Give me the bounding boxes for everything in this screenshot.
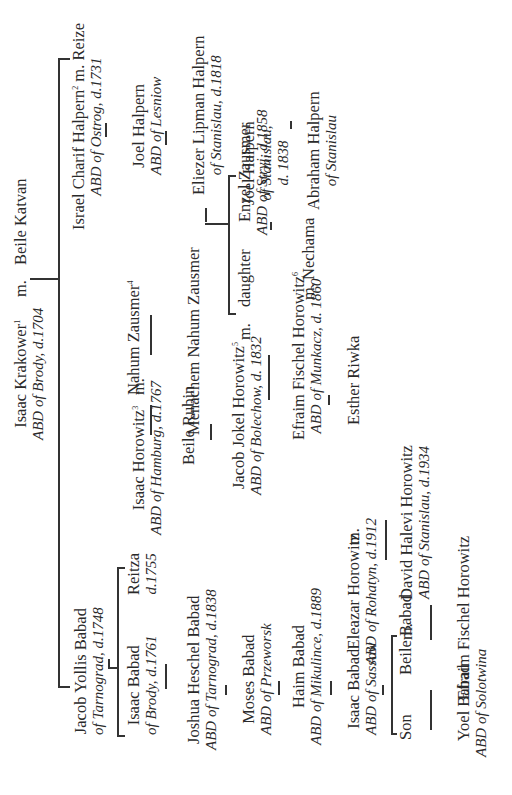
marriage-marker: m.	[12, 280, 30, 297]
person-name: Son	[397, 714, 415, 740]
person-title: ABD of Mikulince, d.1889	[308, 588, 325, 745]
footnote-marker: 2	[71, 86, 80, 90]
person-name: Esther Riwka	[345, 336, 363, 425]
connector-line	[268, 355, 270, 400]
connector-line	[330, 681, 332, 695]
person-title: ABD of Solotwina	[473, 649, 490, 757]
person-name: Enzel Zausmer	[236, 110, 254, 235]
person-name: Jacob Yollis Babad	[72, 607, 90, 735]
person-name: Reitza	[125, 553, 143, 595]
person-isaac-babad: Isaac Babad of Brody, d.1761	[125, 636, 160, 735]
person-reitza: Reitza d.1755	[125, 553, 160, 595]
connector-line	[165, 664, 167, 689]
person-enzel-zausmer: Enzel Zausmer ABD of Stryj, d.1858	[236, 110, 271, 235]
person-title: of Brody, d.1761	[143, 636, 160, 735]
person-name: Beile Babad	[397, 594, 415, 675]
connector-line	[117, 735, 125, 737]
connector-line	[278, 681, 280, 695]
person-title: ABD of Bolechow, d. 1832	[248, 336, 265, 495]
connector-line	[205, 208, 207, 222]
marriage-marker: m.	[69, 65, 88, 82]
connector-line	[328, 395, 330, 405]
person-title: d.1755	[143, 553, 160, 595]
person-jacob-yollis-babad: Jacob Yollis Babad of Tarnograd, d.1748	[72, 607, 107, 735]
person-name: Haim Babad	[290, 588, 308, 745]
person-isaac-babad-sassow: Isaac Babad ABD of Sassow	[345, 642, 380, 735]
connector-line	[210, 424, 212, 440]
person-title: ABD of Stryj, d.1858	[254, 110, 271, 235]
connector-line	[225, 685, 227, 695]
person-name: Isaac Horowitz	[129, 410, 148, 510]
person-beile-katvan: Beile Katvan	[12, 178, 30, 265]
connector-line	[228, 313, 236, 315]
person-david-halevi-horowitz: David Halevi Horowitz ABD of Stanislau, …	[398, 445, 433, 600]
person-title: ABD of Przeworsk	[258, 623, 275, 735]
person-name: Isaac Babad	[125, 636, 143, 735]
person-eliezer-lipman-halpern: Eliezer Lipman Halpern of Stanislau, d.1…	[190, 36, 225, 195]
connector-line	[105, 123, 107, 137]
connector-line	[391, 635, 393, 735]
person-efraim-fischel-horowitz: Efraim Fischel Horowitz6 ABD of Munkacz,…	[290, 272, 325, 440]
person-name: Nechama	[300, 218, 318, 280]
connector-line	[290, 121, 292, 129]
family-tree-diagram: Isaac Krakower1 ABD of Brody, d.1704 m. …	[0, 0, 512, 795]
connector-line	[205, 223, 229, 225]
person-haim-babad: Haim Babad ABD of Mikulince, d.1889	[290, 588, 325, 745]
person-title: ABD of Munkacz, d. 1860	[308, 272, 325, 440]
person-beile-rubin: Beile Rubin	[180, 386, 198, 465]
person-title: ABD of Brody, d.1704	[30, 308, 47, 440]
footnote-marker: 5	[231, 342, 240, 346]
person-name: Isaac Babad	[345, 642, 363, 735]
person-title: ABD of Lesniow	[148, 77, 165, 175]
person-name: Beile Katvan	[12, 178, 30, 265]
person-name: daughter	[236, 249, 254, 307]
person-name: Beile Rubin	[180, 386, 198, 465]
connector-line	[385, 520, 387, 560]
person-name: Israel Charif Halpern	[69, 90, 88, 230]
person-isaac-krakower: Isaac Krakower1 ABD of Brody, d.1704	[12, 308, 47, 440]
connector-line	[430, 605, 432, 640]
person-nechama: Nechama	[300, 218, 318, 280]
footnote-marker: 3	[131, 406, 140, 410]
person-title: ABD of Ostrog, d.1731	[88, 23, 105, 230]
person-name: David Halevi Horowitz	[398, 445, 416, 600]
person-title: ABD of Tarnograd, d.1838	[203, 589, 220, 750]
person-abraham-halpern: Abraham Halpern of Stanislau	[305, 91, 340, 210]
person-son: Son	[397, 714, 415, 740]
person-name: Abraham Halpern	[305, 91, 323, 210]
connector-line	[270, 222, 272, 230]
connector-line	[165, 131, 167, 145]
connector-line	[30, 278, 58, 280]
person-name: Moses Babad	[240, 623, 258, 735]
connector-line	[430, 690, 432, 730]
footnote-marker: 6	[291, 272, 300, 276]
person-name: Jacob Jokel Horowitz	[229, 346, 248, 489]
person-israel-charif-halpern: Israel Charif Halpern2 m. Reize ABD of O…	[70, 23, 105, 230]
connector-line	[228, 175, 230, 315]
person-title: ABD of Sassow	[363, 642, 380, 735]
person-title: ABD of Stanislau, d.1934	[416, 445, 433, 600]
connector-line	[58, 686, 70, 688]
person-name: Isaac Krakower	[11, 324, 30, 428]
person-title: of Stanislau, d.1818	[208, 36, 225, 195]
person-moses-babad: Moses Babad ABD of Przeworsk	[240, 623, 275, 735]
person-esther-riwka: Esther Riwka	[345, 336, 363, 425]
person-title: of Stanislau	[323, 91, 340, 210]
footnote-marker: 1	[13, 320, 22, 324]
person-name: Eliezer Lipman Halpern	[190, 36, 208, 195]
person-name: Joel Halpern	[130, 77, 148, 175]
person-joel-halpern: Joel Halpern ABD of Lesniow	[130, 77, 165, 175]
connector-line	[382, 685, 384, 695]
marriage-marker: m.	[236, 323, 254, 340]
person-title: of Tarnograd, d.1748	[90, 607, 107, 735]
person-beile-babad: Beile Babad	[397, 594, 415, 675]
person-daughter: daughter	[236, 249, 254, 307]
footnote-marker: 4	[126, 281, 135, 285]
person-yoel-babad: Yoel Babad ABD of Solotwina	[455, 649, 490, 757]
person-jacob-jokel-horowitz: Jacob Jokel Horowitz5 ABD of Bolechow, d…	[230, 336, 265, 495]
person-name: Efraim Fischel Horowitz	[289, 276, 308, 440]
person-death-date: d. 1838	[275, 121, 292, 205]
connector-line	[150, 405, 152, 435]
person-reize: Reize	[69, 23, 88, 61]
person-name: Yoel Babad	[455, 649, 473, 757]
